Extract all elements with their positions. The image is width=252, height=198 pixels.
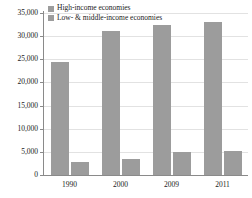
bar-2009-series-1 [153, 25, 171, 175]
y-axis-tick-mark [40, 36, 43, 37]
y-axis-tick-label: 0 [0, 171, 38, 179]
y-axis-tick-label: 10,000 [0, 125, 38, 133]
y-axis-tick-label: 20,000 [0, 78, 38, 86]
bar-1990-series-2 [71, 162, 89, 175]
y-axis-tick-label: 5,000 [0, 148, 38, 156]
y-axis-tick-mark [40, 82, 43, 83]
x-axis-label: 2011 [197, 180, 248, 189]
x-axis-label: 2009 [146, 180, 197, 189]
bar-1990-series-1 [51, 62, 69, 175]
y-axis-tick-mark [40, 59, 43, 60]
y-axis-tick-mark [40, 106, 43, 107]
plot-area [44, 13, 248, 175]
y-axis-tick-mark [40, 152, 43, 153]
y-axis-tick-label: 35,000 [0, 9, 38, 17]
y-axis-tick-mark [40, 175, 43, 176]
bar-2009-series-2 [173, 152, 191, 175]
x-axis-label: 2000 [95, 180, 146, 189]
bar-2000-series-1 [102, 31, 120, 175]
y-axis-tick-label: 30,000 [0, 32, 38, 40]
legend-item-low-middle-income: Low- & middle-income economies [48, 14, 162, 23]
y-axis-tick-label: 25,000 [0, 55, 38, 63]
x-axis-label: 1990 [44, 180, 95, 189]
low-middle-income-swatch [48, 15, 54, 21]
legend-item-high-income: High-income economies [48, 4, 162, 13]
chart-legend: High-income economies Low- & middle-inco… [48, 4, 162, 23]
high-income-swatch [48, 6, 54, 12]
gridline [44, 175, 248, 176]
legend-label-high-income: High-income economies [57, 4, 131, 13]
y-axis-tick-mark [40, 129, 43, 130]
y-axis-tick-mark [40, 13, 43, 14]
bar-2011-series-1 [204, 22, 222, 175]
bar-2011-series-2 [224, 151, 242, 175]
legend-label-low-middle-income: Low- & middle-income economies [57, 14, 162, 23]
bar-chart: 05,00010,00015,00020,00025,00030,00035,0… [0, 0, 252, 198]
bar-2000-series-2 [122, 159, 140, 175]
y-axis-tick-label: 15,000 [0, 102, 38, 110]
